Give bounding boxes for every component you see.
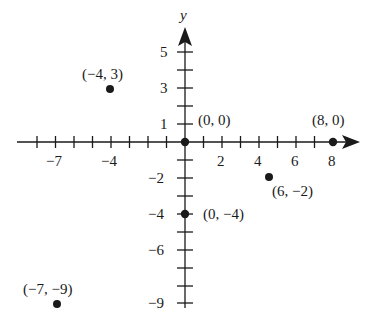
coordinate-plane: y −7 −4 2 4 6 8 5 3 1 −2 −4 −6 −9 (−4, 3…	[0, 0, 368, 313]
y-axis-label: y	[178, 7, 187, 23]
y-tick-label: 3	[160, 80, 168, 96]
x-tick-label: 4	[254, 153, 262, 169]
point-6-neg2	[265, 173, 273, 181]
x-tick-label: 6	[291, 153, 299, 169]
point-8-0	[329, 138, 337, 146]
y-tick-label: −6	[148, 242, 164, 258]
point-origin	[181, 138, 189, 146]
y-tick-label: −9	[148, 295, 164, 311]
x-tick-label: −4	[101, 153, 117, 169]
point-label: (0, 0)	[198, 112, 231, 129]
point-0-neg4	[181, 210, 189, 218]
x-tick-label: 8	[328, 153, 336, 169]
point-label: (−4, 3)	[82, 66, 123, 83]
y-tick-label: 5	[160, 44, 168, 60]
point-label: (6, −2)	[272, 183, 313, 200]
point-neg4-3	[106, 85, 114, 93]
y-tick-label: −2	[148, 170, 164, 186]
y-tick-label: 1	[160, 116, 168, 132]
y-tick-label: −4	[148, 206, 164, 222]
point-neg7-neg9	[53, 300, 61, 308]
point-label: (0, −4)	[203, 206, 244, 223]
y-axis	[177, 36, 193, 308]
x-tick-label: −7	[46, 153, 62, 169]
point-label: (8, 0)	[312, 112, 345, 129]
point-label: (−7, −9)	[23, 281, 72, 298]
x-tick-label: 2	[217, 153, 225, 169]
